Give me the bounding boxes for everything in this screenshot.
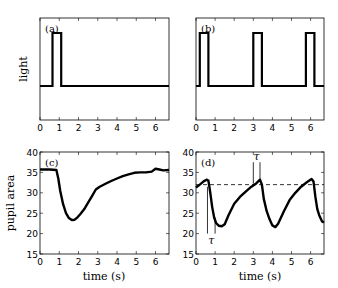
x-tick-label: 6 xyxy=(153,123,159,133)
x-tick-label: 2 xyxy=(76,123,82,133)
x-tick-label: 1 xyxy=(56,123,62,133)
y-tick-label: 20 xyxy=(183,229,195,239)
y-tick-label: 15 xyxy=(27,250,38,260)
x-tick-label: 3 xyxy=(250,257,256,267)
tau-label: τ xyxy=(208,234,215,247)
light-stimulus-line-a xyxy=(40,33,169,86)
x-tick-label: 0 xyxy=(193,123,199,133)
tau-label: τ xyxy=(254,150,261,163)
x-tick-label: 5 xyxy=(133,257,139,267)
x-tick-label: 0 xyxy=(193,257,199,267)
x-tick-label: 5 xyxy=(289,257,295,267)
x-tick-label: 2 xyxy=(76,257,82,267)
x-tick-label: 5 xyxy=(133,123,139,133)
x-tick-label: 1 xyxy=(212,123,218,133)
x-axis-label-c: time (s) xyxy=(83,270,126,283)
panel-label-c: (c) xyxy=(45,157,59,168)
x-tick-label: 1 xyxy=(212,257,218,267)
x-tick-label: 3 xyxy=(250,123,256,133)
x-tick-label: 2 xyxy=(231,123,237,133)
y-tick-label: 40 xyxy=(27,148,39,158)
y-axis-label-pupil-area: pupil area xyxy=(4,174,17,231)
x-axis-label-d: time (s) xyxy=(239,270,282,283)
x-tick-label: 4 xyxy=(114,257,120,267)
x-tick-label: 4 xyxy=(114,123,120,133)
y-tick-label: 35 xyxy=(27,168,38,178)
pupil-area-line-c xyxy=(40,169,169,220)
x-tick-label: 4 xyxy=(270,123,276,133)
y-axis-label-light: light xyxy=(17,56,30,82)
y-tick-label: 25 xyxy=(183,209,194,219)
x-tick-label: 1 xyxy=(56,257,62,267)
panel-d: 0123456 152025303540 (d) time (s) ττ xyxy=(183,148,324,284)
x-ticks-a: 0123456 xyxy=(37,18,159,133)
x-tick-label: 0 xyxy=(37,123,43,133)
x-tick-label: 6 xyxy=(153,257,159,267)
figure: 0123456 (a) light 0123456 (b) 0123456 15… xyxy=(0,0,338,288)
x-tick-label: 3 xyxy=(95,123,101,133)
tau-annotations: ττ xyxy=(207,150,260,246)
x-tick-label: 6 xyxy=(308,123,314,133)
x-tick-label: 0 xyxy=(37,257,43,267)
panel-a: 0123456 (a) light xyxy=(17,18,169,133)
light-stimulus-line-b xyxy=(196,33,324,86)
y-tick-label: 20 xyxy=(27,229,39,239)
pupil-area-line-d xyxy=(196,179,324,227)
y-tick-label: 15 xyxy=(183,250,194,260)
y-tick-label: 25 xyxy=(27,209,38,219)
panel-c: 0123456 152025303540 (c) pupil area time… xyxy=(4,148,169,284)
x-tick-label: 4 xyxy=(270,257,276,267)
panel-b: 0123456 (b) xyxy=(193,18,324,133)
y-tick-label: 35 xyxy=(183,168,194,178)
x-tick-label: 5 xyxy=(289,123,295,133)
x-tick-label: 3 xyxy=(95,257,101,267)
y-tick-label: 30 xyxy=(27,188,39,198)
y-tick-label: 30 xyxy=(183,188,195,198)
panel-label-d: (d) xyxy=(201,157,215,168)
x-tick-label: 2 xyxy=(231,257,237,267)
x-tick-label: 6 xyxy=(308,257,314,267)
y-tick-label: 40 xyxy=(183,148,195,158)
